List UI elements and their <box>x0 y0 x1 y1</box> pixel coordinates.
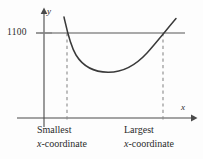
annotation-largest-x-coordinate: Largest x-coordinate <box>124 123 174 151</box>
x-axis-arrowhead-icon <box>191 115 198 122</box>
annotation-smallest-suffix: -coordinate <box>41 138 87 149</box>
annotation-largest-line1: Largest <box>124 123 174 137</box>
annotation-smallest-line2: x-coordinate <box>37 137 87 151</box>
annotation-largest-line2: x-coordinate <box>124 137 174 151</box>
annotation-largest-suffix: -coordinate <box>128 138 174 149</box>
annotation-smallest-x-coordinate: Smallest x-coordinate <box>37 123 87 151</box>
curve-path <box>64 17 176 72</box>
y-tick-label-1100: 1100 <box>7 27 27 37</box>
y-axis <box>41 8 48 128</box>
x-axis-label: x <box>181 102 185 112</box>
graph-figure: 1100 y x Smallest x-coordinate Largest x… <box>0 0 203 159</box>
y-axis-label: y <box>47 6 51 16</box>
annotation-smallest-line1: Smallest <box>37 123 87 137</box>
